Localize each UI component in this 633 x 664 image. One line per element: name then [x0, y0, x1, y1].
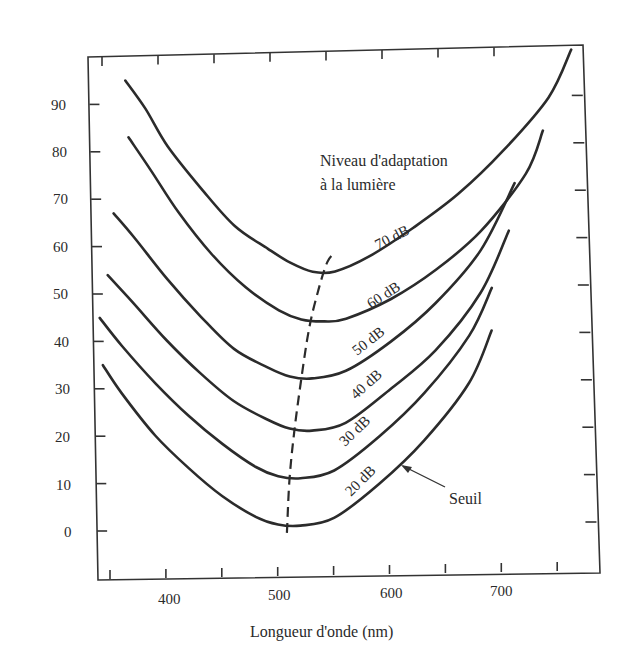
x-tick-label: 600	[380, 585, 403, 601]
x-tick-label: 500	[268, 587, 291, 603]
curve-label-20db: 20 dB	[342, 462, 379, 499]
x-axis-title: Longueur d'onde (nm)	[250, 623, 393, 641]
x-tick-label: 700	[490, 583, 513, 599]
x-axis-labels: 400 500 600 700	[158, 583, 513, 607]
y-tick-label: 30	[55, 381, 70, 397]
y-axis-labels: 0 10 20 30 40 50 60 70 80 90	[51, 97, 72, 540]
curve-label-50db: 50 dB	[349, 323, 387, 358]
x-tick-label: 400	[158, 591, 181, 607]
curve-label-70db: 70 dB	[372, 222, 412, 253]
y-tick-label: 10	[56, 477, 71, 493]
y-tick-label: 20	[55, 429, 70, 445]
chart: 0 10 20 30 40 50 60 70 80 90 400 500 600…	[0, 0, 633, 664]
axis-ticks	[89, 47, 596, 579]
seuil-annotation: Seuil	[449, 490, 482, 507]
seuil-arrow-icon	[401, 465, 445, 487]
threshold-curves	[100, 50, 572, 527]
plot-frame	[88, 45, 600, 580]
y-tick-label: 0	[64, 524, 72, 540]
curve-20db	[103, 331, 492, 527]
y-tick-label: 60	[53, 239, 68, 255]
y-tick-label: 90	[51, 97, 66, 113]
curve-label-60db: 60 dB	[364, 278, 403, 311]
y-tick-label: 70	[53, 191, 68, 207]
minima-locus-dashed-line	[287, 253, 335, 533]
y-tick-label: 50	[53, 286, 68, 302]
y-tick-label: 80	[52, 144, 67, 160]
legend-title-line2: à la lumière	[320, 176, 396, 193]
y-tick-label: 40	[54, 334, 69, 350]
legend-title-line1: Niveau d'adaptation	[320, 152, 448, 170]
